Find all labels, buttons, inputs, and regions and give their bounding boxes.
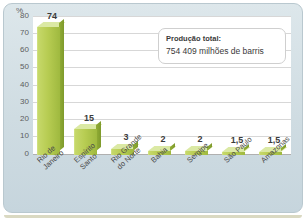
y-tick-60: 60 [20,46,29,54]
bar-front-face [37,27,60,155]
y-tick-70: 70 [20,29,29,37]
y-tick-20: 20 [20,115,29,123]
bar-rio-de-janeiro [37,27,59,155]
y-tick-40: 40 [20,81,29,89]
total-production-callout: Produção total: 754 409 milhões de barri… [158,28,286,64]
y-tick-50: 50 [20,63,29,71]
y-tick-10: 10 [20,132,29,140]
callout-value: 754 409 milhões de barris [166,45,278,57]
callout-title: Produção total: [166,34,278,44]
y-axis: % 80 70 60 50 40 30 20 10 0 [0,0,33,171]
y-tick-80: 80 [20,12,29,20]
x-axis-labels: Rio de Janeiro Espírito Santo Rio Grande… [33,158,306,220]
y-tick-0: 0 [25,150,29,158]
chart-container: % 80 70 60 50 40 30 20 10 0 74 15 [0,0,306,220]
y-tick-30: 30 [20,98,29,106]
